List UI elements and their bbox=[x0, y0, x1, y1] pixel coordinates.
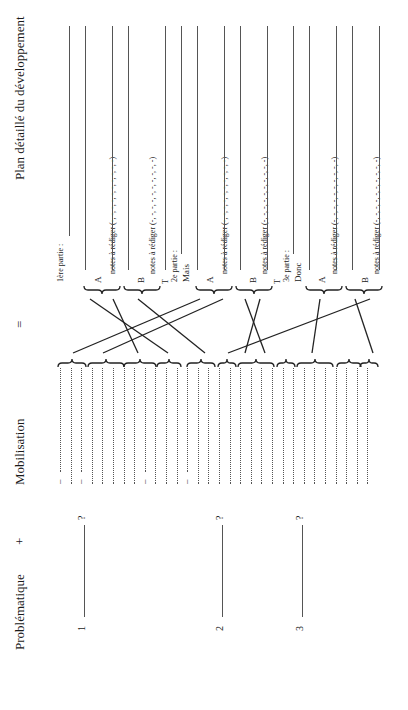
writing-line[interactable] bbox=[224, 26, 225, 270]
connector-diagram bbox=[0, 0, 408, 710]
section-letter: A bbox=[93, 277, 103, 284]
writing-line[interactable] bbox=[240, 26, 241, 270]
section-letter: B bbox=[360, 277, 370, 283]
notes-text: notes à rédiger (-, -, -, -, -, -, -, -,… bbox=[372, 157, 382, 274]
writing-line[interactable] bbox=[352, 26, 353, 270]
notes-text: notes à rédiger (-, -, -, -, -, -, -, -,… bbox=[148, 157, 158, 274]
notes-text: notes à rédiger (-, -, -, -, -, -, -, -,… bbox=[260, 157, 270, 274]
writing-line[interactable] bbox=[197, 26, 198, 270]
notes-text: notes à rédiger (-, -, -, -, -, -, -, -,… bbox=[220, 157, 230, 274]
part-title: 1ère partie : bbox=[56, 244, 66, 282]
section-letter: B bbox=[248, 277, 258, 283]
notes-text: notes à rédiger (-, -, -, -, -, -, -, -,… bbox=[330, 157, 340, 274]
writing-line[interactable] bbox=[309, 26, 310, 270]
writing-line[interactable] bbox=[165, 26, 166, 270]
part-connector: Mais bbox=[181, 264, 191, 282]
part-connector: Donc bbox=[293, 263, 303, 283]
section-letter: A bbox=[317, 277, 327, 284]
writing-line[interactable] bbox=[293, 26, 294, 254]
writing-line[interactable] bbox=[379, 26, 380, 270]
section-letter: A bbox=[205, 277, 215, 284]
part-title: 2e partie : bbox=[170, 250, 180, 282]
section-letter: B bbox=[136, 277, 146, 283]
writing-line[interactable] bbox=[267, 26, 268, 270]
writing-line[interactable] bbox=[85, 26, 86, 270]
worksheet-page: Problématique + Mobilisation = Plan déta… bbox=[0, 0, 408, 710]
writing-line[interactable] bbox=[181, 26, 182, 254]
part-title: 3e partie : bbox=[282, 250, 292, 282]
writing-line[interactable] bbox=[336, 26, 337, 270]
writing-line[interactable] bbox=[128, 26, 129, 270]
writing-line[interactable] bbox=[112, 26, 113, 270]
writing-line[interactable] bbox=[69, 26, 70, 236]
notes-text: notes à rédiger (-, -, -, -, -, -, -, -,… bbox=[108, 157, 118, 274]
